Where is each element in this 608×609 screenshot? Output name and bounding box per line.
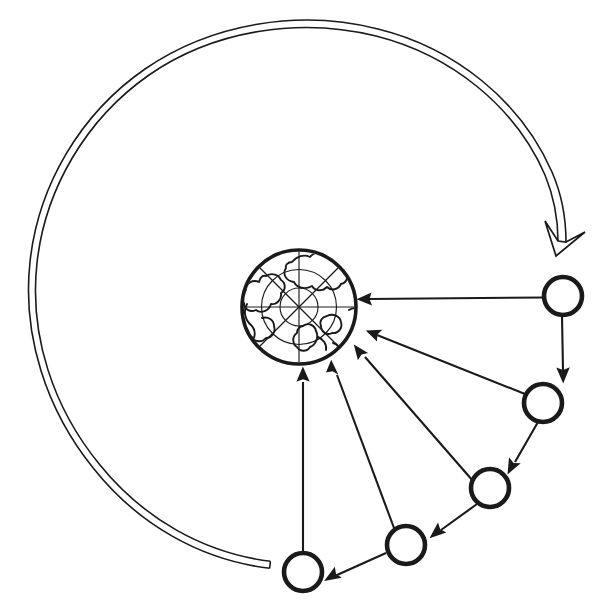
- signal-arrow-3-shaft: [365, 357, 473, 481]
- satellite-position-5: [284, 553, 322, 591]
- satellite-position-1: [544, 277, 582, 315]
- satellite-position-3: [471, 469, 509, 507]
- chain-arrow-3-shaft: [441, 504, 477, 530]
- signal-arrow-5-head: [296, 367, 309, 382]
- chain-arrow-1: [556, 316, 570, 384]
- chain-arrow-4-shaft: [337, 553, 386, 575]
- chain-arrow-group: [324, 316, 570, 581]
- signal-arrow-2-shaft: [377, 335, 525, 394]
- chain-arrow-3: [430, 504, 478, 538]
- chain-arrow-2-head: [508, 457, 521, 474]
- diagram-canvas: Orbital decay of a satellite transmittin…: [0, 0, 608, 609]
- chain-arrow-2: [508, 422, 539, 475]
- satellite-position-4: [387, 526, 425, 564]
- satellite-position-2: [524, 384, 562, 422]
- signal-arrow-4-head: [326, 360, 338, 375]
- signal-arrow-1-shaft: [368, 298, 544, 300]
- orbital-decay-diagram: Orbital decay of a satellite transmittin…: [0, 0, 608, 609]
- chain-arrow-4: [324, 553, 386, 581]
- signal-arrow-4: [326, 360, 394, 528]
- orbital-path-tail-cap: [270, 561, 271, 568]
- signal-arrow-5: [296, 367, 309, 554]
- chain-arrow-3-head: [430, 523, 447, 539]
- signal-arrow-1: [357, 293, 545, 306]
- chain-arrow-1-shaft: [562, 316, 563, 370]
- earth-globe: [241, 249, 364, 365]
- chain-arrow-2-shaft: [515, 422, 538, 462]
- signal-arrow-4-shaft: [337, 375, 394, 528]
